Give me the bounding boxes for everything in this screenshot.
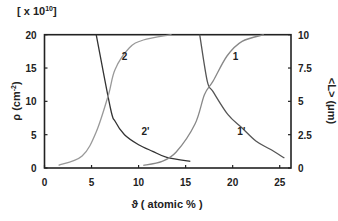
- y-tick-label: 10: [25, 96, 37, 107]
- y2-tick-label: 2.5: [298, 130, 312, 141]
- x-tick-label: 15: [180, 177, 192, 188]
- x-axis-title: ϑ ( atomic % ): [131, 198, 203, 210]
- y2-tick-label: 7.5: [298, 63, 312, 74]
- y2-tick-label: 0: [298, 163, 304, 174]
- x-tick-label: 25: [274, 177, 286, 188]
- y-axis-title: ρ (cm-2): [10, 81, 22, 121]
- x-tick-label: 0: [42, 177, 48, 188]
- y-tick-label: 5: [31, 130, 37, 141]
- curve-label: 1: [233, 51, 239, 62]
- x-tick-label: 5: [89, 177, 95, 188]
- y2-tick-label: 5: [298, 96, 304, 107]
- plot-frame: [45, 35, 292, 168]
- curve-label: 2: [122, 51, 128, 62]
- curve-label: 2': [141, 126, 149, 137]
- svg-text:[ x 1010]: [ x 1010]: [17, 5, 57, 17]
- svg-text:<L> (μm): <L> (μm): [326, 78, 338, 125]
- x-tick-label: 20: [227, 177, 239, 188]
- y-tick-label: 20: [25, 30, 37, 41]
- chart: [ x 1010] 05101520250510152002.557.510 2…: [0, 0, 338, 221]
- multiplier-label: [ x 1010]: [17, 5, 57, 17]
- curve-labels: 22'11': [122, 51, 246, 137]
- curve-label: 1': [237, 126, 245, 137]
- y2-axis-title: <L> (μm): [326, 78, 338, 125]
- y2-tick-label: 10: [298, 30, 310, 41]
- curve-1p: [200, 35, 285, 158]
- curves: [59, 35, 285, 166]
- curve-2p: [96, 35, 190, 162]
- curve-1: [143, 35, 263, 166]
- x-tick-label: 10: [133, 177, 145, 188]
- svg-text:ρ (cm-2): ρ (cm-2): [10, 81, 22, 121]
- y-tick-label: 15: [25, 63, 37, 74]
- y-tick-label: 0: [31, 163, 37, 174]
- axis-ticks: 05101520250510152002.557.510: [25, 30, 312, 188]
- curve-2: [59, 35, 172, 166]
